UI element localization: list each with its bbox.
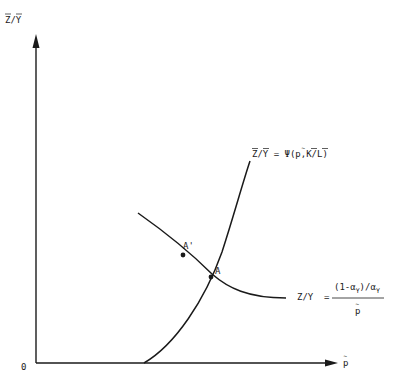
ratio-curve xyxy=(138,213,286,298)
economics-diagram: Z/Y p ~ 0 A' A Z/Y = Ψ(p,K/L) xyxy=(0,0,402,388)
x-axis-arrow-icon xyxy=(325,360,338,367)
svg-text:~: ~ xyxy=(302,144,306,151)
svg-text:(1-αY)/αY: (1-αY)/αY xyxy=(334,282,380,295)
svg-text:Z/Y: Z/Y xyxy=(297,292,314,302)
x-axis-label: p ~ xyxy=(343,352,348,368)
svg-text:A: A xyxy=(215,266,221,276)
ratio-curve-label: Z/Y = (1-αY)/αY p ~ xyxy=(297,282,384,316)
svg-text:Z/Y: Z/Y xyxy=(5,15,22,25)
svg-text:~: ~ xyxy=(344,352,348,359)
psi-curve xyxy=(144,161,250,363)
y-axis-label: Z/Y xyxy=(5,14,22,25)
svg-text:~: ~ xyxy=(356,300,360,307)
x-axis xyxy=(36,360,338,367)
svg-text:=: = xyxy=(324,292,330,302)
y-axis xyxy=(33,34,40,363)
svg-text:p: p xyxy=(355,306,360,316)
origin-label: 0 xyxy=(21,362,26,372)
svg-text:A': A' xyxy=(183,241,194,251)
y-axis-arrow-icon xyxy=(33,34,40,48)
svg-text:Z/Y = Ψ(p,K/L): Z/Y = Ψ(p,K/L) xyxy=(252,149,328,159)
svg-text:p: p xyxy=(343,358,348,368)
psi-curve-label: Z/Y = Ψ(p,K/L) ~ xyxy=(252,144,328,159)
